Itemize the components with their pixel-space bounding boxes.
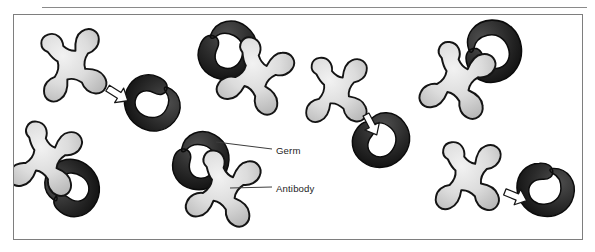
pair-bottom-right [430,137,575,217]
label-antibody: Antibody [276,183,315,194]
pair-top-center [190,11,298,118]
pair-top-right [417,14,528,121]
pair-middle-center [299,52,421,180]
figure-canvas: Germ Antibody [0,0,595,252]
pair-bottom-left [7,119,111,226]
label-germ: Germ [276,145,301,156]
pair-bottom-center-labeled [167,125,262,228]
pair-top-left [27,20,190,141]
diagram-artwork [0,0,595,252]
